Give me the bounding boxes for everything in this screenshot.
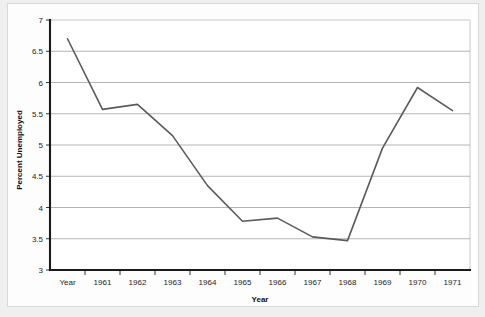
x-axis-tick-label: 1962 <box>129 278 147 287</box>
y-axis-tick-label: 5.5 <box>32 110 44 119</box>
x-axis-tick-labels-group: Year196119621963196419651966196719681969… <box>59 278 462 287</box>
y-axis-tick-label: 4.5 <box>32 172 44 181</box>
line-chart-figure: 33.544.555.566.57 Year196119621963196419… <box>0 0 485 317</box>
y-axis-tick-label: 3 <box>39 266 44 275</box>
y-axis-tick-label: 5 <box>39 141 44 150</box>
x-axis-tick-label: 1966 <box>269 278 287 287</box>
y-axis-tick-label: 6 <box>39 79 44 88</box>
chart-canvas: 33.544.555.566.57 Year196119621963196419… <box>0 0 485 317</box>
x-axis-tick-label: 1967 <box>304 278 322 287</box>
x-axis-tick-label: 1970 <box>409 278 427 287</box>
y-axis-tick-label: 4 <box>39 204 44 213</box>
x-axis-tick-label: 1964 <box>199 278 217 287</box>
x-axis-tick-label: 1968 <box>339 278 357 287</box>
x-axis-title: Year <box>252 295 269 304</box>
y-axis-tick-labels-group: 33.544.555.566.57 <box>32 16 44 275</box>
x-axis-tick-label: 1961 <box>94 278 112 287</box>
screenshot-root: 33.544.555.566.57 Year196119621963196419… <box>0 0 485 317</box>
x-axis-tick-label: Year <box>59 278 76 287</box>
x-axis-tick-label: 1965 <box>234 278 252 287</box>
x-axis-tick-label: 1963 <box>164 278 182 287</box>
y-axis-tick-label: 7 <box>39 16 44 25</box>
y-axis-title: Percent Unemployed <box>15 110 24 190</box>
x-axis-tick-label: 1971 <box>444 278 462 287</box>
x-axis-tick-label: 1969 <box>374 278 392 287</box>
y-axis-tick-label: 6.5 <box>32 47 44 56</box>
y-axis-tick-label: 3.5 <box>32 235 44 244</box>
